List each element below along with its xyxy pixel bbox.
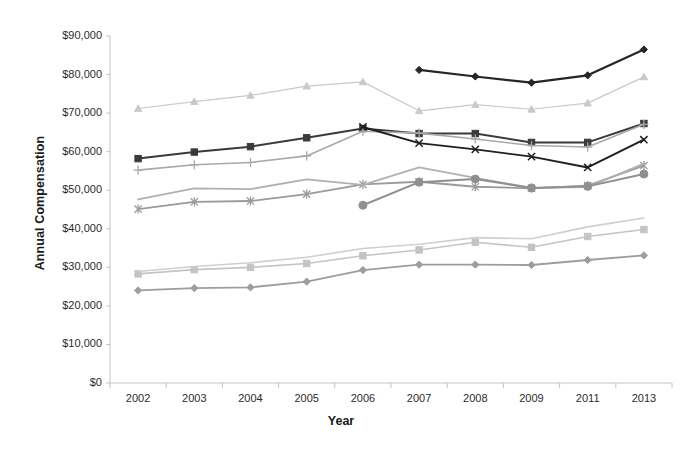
series-circle-7 xyxy=(359,170,648,209)
series-triangle-1 xyxy=(135,73,648,113)
axis-lines xyxy=(106,36,672,388)
series-plus-3 xyxy=(134,120,649,175)
series-diamond-10 xyxy=(135,252,648,294)
series-line-9 xyxy=(138,218,644,272)
series-layer xyxy=(134,46,649,294)
series-square-8 xyxy=(135,226,647,277)
series-x-4 xyxy=(359,123,647,171)
line-chart: Annual Compensation Year $0$10,000$20,00… xyxy=(0,0,682,449)
series-diamond-0 xyxy=(416,46,648,86)
plot-area xyxy=(0,0,682,449)
series-square-2 xyxy=(135,120,647,161)
